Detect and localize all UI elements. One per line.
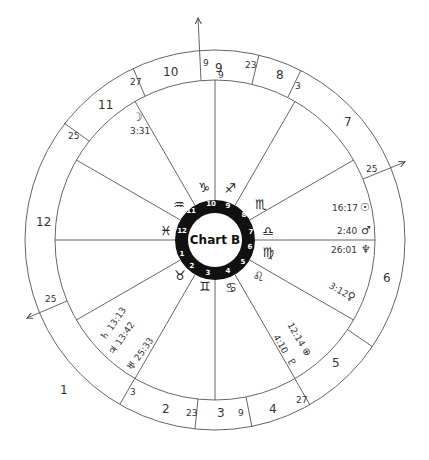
fortune-position: 12:14 (285, 321, 307, 349)
wheel-num-1: 1 (180, 250, 185, 258)
gemini-icon: ♊ (199, 279, 211, 294)
pluto-icon: ♇ (285, 356, 299, 369)
cusp-label-8-7: 3 (295, 81, 301, 91)
cusp-label-asc: 25 (45, 294, 56, 304)
natal-chart-wheel: 1 2 3 4 5 6 7 8 9 10 11 12 9 9 23 3 25 2… (0, 0, 429, 460)
cusp-label-dsc: 25 (366, 164, 377, 174)
capricorn-icon: ♑ (198, 180, 210, 195)
planet-mars: 2:40 ♂ (337, 224, 371, 237)
libra-icon: ♎ (262, 224, 274, 239)
pisces-icon: ♓ (160, 223, 172, 238)
planet-fortune: 12:14 ⊕ (285, 320, 313, 358)
part-of-fortune-icon: ⊕ (300, 345, 314, 358)
leo-icon: ♌ (252, 269, 264, 284)
planet-neptune: 26:01 ♆ (331, 243, 371, 256)
house-10: 10 (163, 65, 178, 79)
wheel-num-11: 11 (186, 207, 196, 215)
pluto-position: 4:10 (271, 333, 290, 356)
house-11: 11 (98, 98, 113, 112)
chart-title: Chart B (190, 233, 240, 247)
cusp-label-4-3: 9 (238, 408, 244, 418)
cusp-label-2-1: 3 (130, 387, 136, 397)
cusp-label-12-11: 25 (68, 131, 79, 141)
cusp-label-9-8: 23 (245, 60, 256, 70)
wheel-num-6: 6 (248, 243, 253, 251)
cusp-label-mc-right: 9 (218, 70, 224, 80)
wheel-num-9: 9 (226, 202, 231, 210)
aquarius-icon: ♒ (173, 197, 185, 212)
midheaven-arrow (198, 18, 201, 80)
neptune-position: 26:01 (331, 245, 357, 255)
wheel-num-2: 2 (190, 262, 195, 270)
house-8: 8 (276, 68, 284, 82)
cusp-label-5-4: 27 (296, 395, 307, 405)
wheel-num-10: 10 (206, 200, 216, 208)
mars-icon: ♂ (361, 224, 371, 237)
planet-venus: 3:12 ♀ (327, 279, 358, 304)
cusp-label-3-2: 23 (186, 408, 197, 418)
planet-uranus: ♅ 25:33 (125, 335, 156, 372)
house-6: 6 (383, 271, 391, 285)
wheel-num-5: 5 (241, 258, 246, 266)
sun-position: 16:17 (332, 203, 358, 213)
house-1: 1 (60, 383, 68, 397)
wheel-num-7: 7 (249, 228, 254, 236)
moon-position: 3:31 (130, 126, 150, 136)
mars-position: 2:40 (337, 226, 357, 236)
sagittarius-icon: ♐ (224, 181, 236, 196)
house-7: 7 (344, 115, 352, 129)
wheel-num-4: 4 (226, 267, 231, 275)
wheel-num-12: 12 (177, 227, 187, 235)
wheel-num-3: 3 (206, 269, 211, 277)
house-5: 5 (332, 356, 340, 370)
cusp-label-11-10: 27 (130, 77, 141, 87)
house-2: 2 (162, 402, 170, 416)
cusp-label-mc-left: 9 (203, 58, 209, 68)
virgo-icon: ♍ (262, 245, 274, 260)
cancer-icon: ♋ (225, 280, 237, 295)
scorpio-icon: ♏ (255, 197, 267, 212)
house-4: 4 (269, 402, 277, 416)
neptune-icon: ♆ (361, 243, 371, 256)
house-3: 3 (217, 406, 225, 420)
sun-icon: ☉ (360, 201, 370, 214)
planet-sun: 16:17 ☉ (332, 201, 370, 214)
taurus-icon: ♉ (174, 268, 186, 283)
moon-icon: ☽ (132, 110, 143, 124)
wheel-num-8: 8 (242, 211, 247, 219)
house-12: 12 (36, 215, 51, 229)
